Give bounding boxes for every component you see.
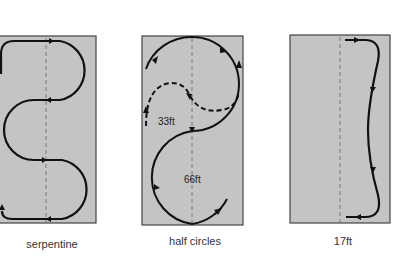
caption-17ft: 17ft (318, 235, 368, 247)
caption-serpentine: serpentine (12, 238, 92, 250)
seventeen-ft-diagram (290, 35, 391, 224)
label-33ft: 33ft (158, 116, 175, 127)
half-circles-diagram: 33ft 66ft (142, 36, 244, 226)
box (0, 36, 96, 223)
caption-half-circles: half circles (150, 235, 240, 247)
half-circles-figure (142, 36, 244, 226)
serpentine-diagram (0, 36, 97, 224)
seventeen-ft-figure (290, 35, 391, 224)
serpentine-figure (0, 36, 97, 224)
label-66ft: 66ft (184, 174, 201, 185)
